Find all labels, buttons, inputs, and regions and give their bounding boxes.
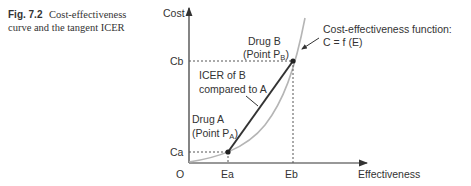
point-a-label: (Point PA) <box>192 127 238 141</box>
point-a-close: ) <box>234 127 238 139</box>
cost-effectiveness-diagram: Cost Effectiveness O Cb Ca Ea Eb Cost-ef… <box>0 0 471 186</box>
icer-label-line2: compared to A <box>199 83 267 95</box>
tick-eb: Eb <box>285 168 298 180</box>
tick-cb: Cb <box>170 55 184 67</box>
function-pointer-arrow <box>302 38 319 49</box>
point-b-prefix: (Point P <box>243 48 280 60</box>
y-axis-label: Cost <box>163 7 185 19</box>
drug-a-label: Drug A <box>192 113 224 125</box>
tick-ea: Ea <box>221 168 234 180</box>
x-axis-label: Effectiveness <box>358 168 420 180</box>
point-a-prefix: (Point P <box>192 127 229 139</box>
icer-pointer-line <box>246 96 258 106</box>
origin-label: O <box>176 168 184 180</box>
drug-b-label: Drug B <box>248 35 281 47</box>
point-b-close: ) <box>285 48 289 60</box>
function-label-line2: C = f (E) <box>323 36 362 48</box>
function-label-line1: Cost-effectiveness function: <box>323 23 452 35</box>
point-b-label: (Point PB) <box>243 48 289 62</box>
icer-label-line1: ICER of B <box>199 69 246 81</box>
point-b <box>290 58 295 63</box>
tick-ca: Ca <box>170 146 184 158</box>
point-a <box>225 149 230 154</box>
